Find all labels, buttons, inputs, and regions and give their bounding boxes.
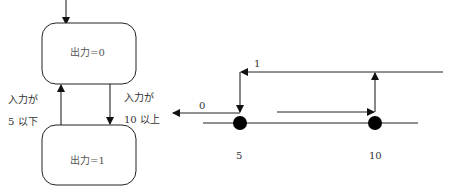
threshold-dot-10	[368, 116, 382, 130]
threshold-label-10: 10	[369, 151, 382, 161]
threshold-label-5: 5	[236, 151, 242, 161]
transition-label-low-line2: 5 以下	[8, 117, 38, 127]
threshold-dot-5	[233, 116, 247, 130]
state-label-output-1: 出力=1	[70, 156, 105, 166]
transition-label-high-line1: 入力が	[124, 93, 154, 103]
state-label-output-0: 出力=0	[70, 48, 105, 58]
hysteresis-diagram	[173, 72, 443, 130]
diagram-canvas	[0, 0, 450, 191]
output-low-label: 0	[199, 101, 205, 111]
transition-label-high-line2: 10 以上	[124, 115, 160, 125]
output-high-label: 1	[254, 59, 260, 69]
transition-label-low-line1: 入力が	[8, 95, 38, 105]
